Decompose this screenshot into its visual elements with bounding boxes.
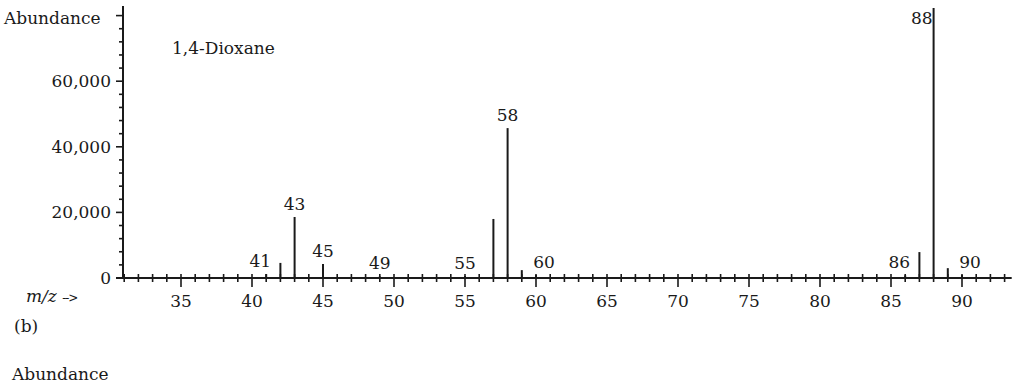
- peak-label: 43: [284, 194, 306, 214]
- peak-label: 49: [369, 253, 391, 273]
- peaks: [266, 8, 962, 278]
- x-tick-label: 90: [951, 291, 973, 311]
- peak-label: 58: [497, 105, 519, 125]
- y-tick-label: 60,000: [52, 71, 111, 91]
- x-tick-label: 50: [383, 291, 405, 311]
- x-tick-label: 55: [454, 291, 476, 311]
- peak-label: 86: [888, 252, 910, 272]
- peak-label: 88: [911, 8, 933, 28]
- y-tick-label: 40,000: [52, 137, 111, 157]
- peak-label: 45: [312, 241, 334, 261]
- x-tick-label: 70: [667, 291, 689, 311]
- x-tick-label: 45: [312, 291, 334, 311]
- x-tick-label: 75: [738, 291, 760, 311]
- peak-label: 60: [533, 252, 555, 272]
- next-panel-y-label: Abundance: [12, 364, 109, 384]
- x-axis-label: m/z -->: [26, 286, 77, 306]
- x-axis-label-text: m/z: [26, 286, 57, 306]
- arrow-icon: -->: [62, 291, 77, 305]
- x-tick-label: 80: [809, 291, 831, 311]
- peak-label: 90: [959, 252, 981, 272]
- peak-labels: 41434549555860868890: [249, 8, 980, 273]
- x-tick-label: 35: [170, 291, 192, 311]
- y-axis-label: Abundance: [4, 8, 101, 28]
- peak-label: 55: [454, 253, 476, 273]
- x-tick-label: 65: [596, 291, 618, 311]
- x-tick-label: 85: [880, 291, 902, 311]
- y-tick-label: 0: [100, 268, 111, 288]
- x-tick-label: 60: [525, 291, 547, 311]
- compound-title: 1,4-Dioxane: [172, 38, 275, 58]
- peak-label: 41: [249, 251, 271, 271]
- x-tick-label: 40: [241, 291, 263, 311]
- panel-label: (b): [14, 316, 38, 336]
- y-tick-label: 20,000: [52, 202, 111, 222]
